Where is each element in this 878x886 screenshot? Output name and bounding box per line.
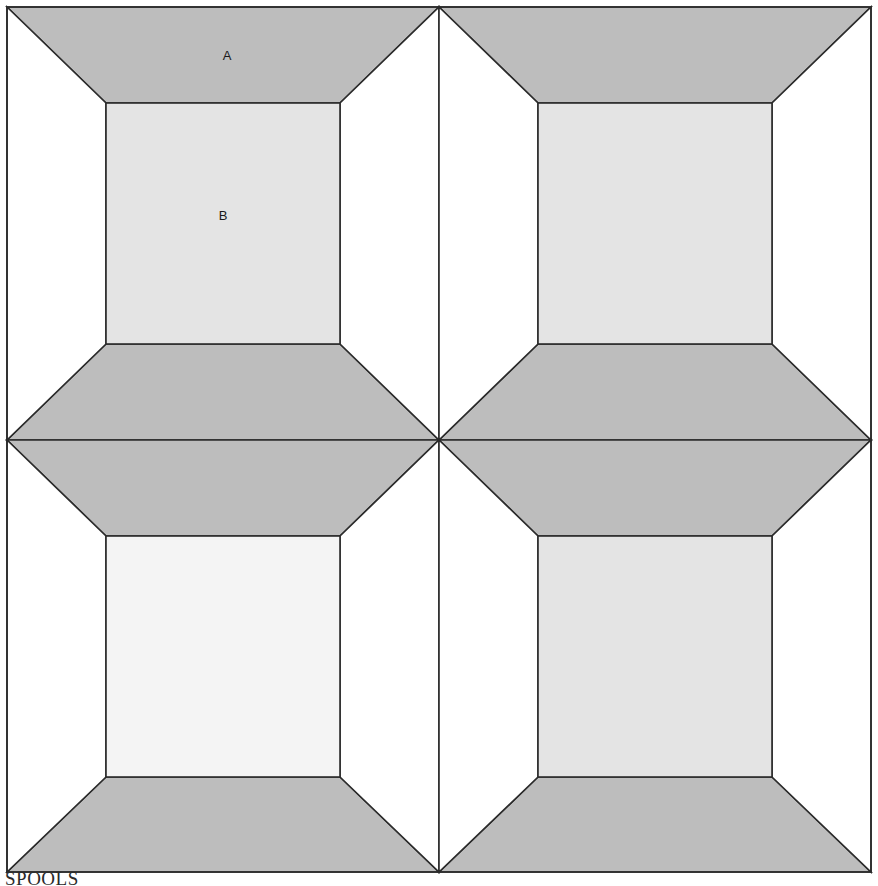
figure-caption: SPOOLS: [5, 869, 79, 886]
block-bottom-left: [7, 440, 439, 872]
figure-page: A B SPOOLS: [0, 0, 878, 886]
piece-label-b: B: [219, 208, 228, 223]
block-bottom-right: [439, 440, 871, 872]
block-top-right: [439, 7, 871, 440]
quilt-block-diagram: A B: [0, 0, 878, 886]
patch-b-center: [106, 103, 340, 344]
patch-b-center: [538, 536, 772, 777]
block-top-left: [7, 7, 439, 440]
patch-b-center: [106, 536, 340, 777]
patch-b-center: [538, 103, 772, 344]
quilt-svg: A B: [0, 0, 878, 886]
piece-label-a: A: [223, 48, 232, 63]
